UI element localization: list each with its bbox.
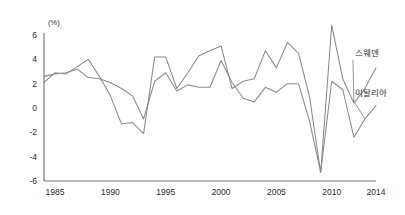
x-axis-tick-label: 2000 [212, 187, 231, 197]
series-label-italy: 이탈리아 [355, 88, 387, 98]
chart-canvas: (%)6420-2-4-6198519901995200020052010201… [0, 0, 405, 215]
x-axis-tick-label: 1985 [46, 187, 65, 197]
y-axis-tick-label: 0 [32, 103, 37, 113]
series-line-sweden [44, 25, 376, 172]
series-label-leader-italy [353, 100, 365, 119]
y-axis-tick-label: 6 [32, 30, 37, 40]
gdp-growth-line-chart: (%)6420-2-4-6198519901995200020052010201… [0, 0, 405, 215]
x-axis-tick-label: 1995 [156, 187, 175, 197]
y-axis-tick-label: -2 [29, 127, 37, 137]
y-axis-tick-label: -4 [29, 152, 37, 162]
y-axis-tick-label: 4 [32, 54, 37, 64]
x-axis-tick-label: 2014 [367, 187, 386, 197]
y-axis-tick-label: -6 [29, 176, 37, 186]
x-axis-tick-label: 2010 [322, 187, 341, 197]
y-axis-unit-label: (%) [48, 18, 60, 27]
series-label-leader-sweden [353, 60, 354, 103]
x-axis-tick-label: 1990 [101, 187, 120, 197]
series-label-sweden: 스웨덴 [355, 48, 379, 58]
y-axis-tick-label: 2 [32, 79, 37, 89]
x-axis-tick-label: 2005 [267, 187, 286, 197]
series-line-italy [44, 61, 376, 173]
